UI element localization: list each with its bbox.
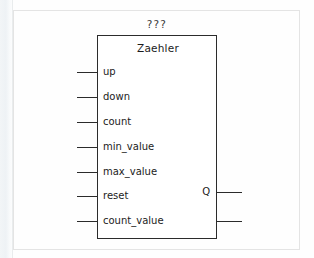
port-wire-count-value-out[interactable] <box>216 221 242 222</box>
block-instance-name: Zaehler <box>98 42 218 54</box>
diagram-title: ??? <box>97 18 217 30</box>
port-wire-up[interactable] <box>77 72 98 73</box>
port-wire-down[interactable] <box>77 97 98 98</box>
port-label-count: count <box>103 117 131 127</box>
diagram-canvas: ??? Zaehler up down count min_value max_… <box>0 0 314 258</box>
port-wire-reset[interactable] <box>77 196 98 197</box>
port-label-q: Q <box>180 187 210 197</box>
port-wire-q-out[interactable] <box>216 192 242 193</box>
port-label-up: up <box>103 67 116 77</box>
port-label-count-value: count_value <box>103 216 164 226</box>
port-wire-max-value[interactable] <box>77 172 98 173</box>
port-wire-count-value[interactable] <box>77 221 98 222</box>
port-label-down: down <box>103 92 130 102</box>
port-label-max-value: max_value <box>103 167 157 177</box>
port-label-reset: reset <box>103 191 128 201</box>
port-label-min-value: min_value <box>103 142 154 152</box>
port-wire-count[interactable] <box>77 122 98 123</box>
port-wire-min-value[interactable] <box>77 147 98 148</box>
